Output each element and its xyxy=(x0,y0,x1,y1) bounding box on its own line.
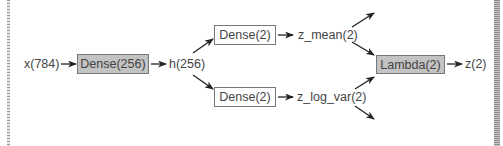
arrow-h-to-dense-logvar xyxy=(193,75,213,89)
node-lambda-label: Lambda(2) xyxy=(380,58,440,72)
node-hidden: h(256) xyxy=(169,57,205,71)
node-dense-mean-label: Dense(2) xyxy=(219,28,270,42)
node-input: x(784) xyxy=(24,57,59,71)
arrow-zmean-out xyxy=(352,13,374,27)
arrow-zmean-to-lambda xyxy=(352,42,374,55)
node-z-mean: z_mean(2) xyxy=(298,28,358,42)
node-dense-256-label: Dense(256) xyxy=(80,57,145,71)
node-z-log-var: z_log_var(2) xyxy=(297,90,366,104)
arrow-zlogvar-out xyxy=(355,106,374,119)
node-z: z(2) xyxy=(465,57,487,71)
arrow-zlogvar-to-lambda xyxy=(355,77,374,89)
node-dense-logvar-label: Dense(2) xyxy=(219,90,270,104)
arrow-h-to-dense-mean xyxy=(193,39,213,53)
node-lambda: Lambda(2) xyxy=(376,55,445,74)
node-dense-mean: Dense(2) xyxy=(214,25,276,45)
node-dense-logvar: Dense(2) xyxy=(214,87,276,107)
node-dense-256: Dense(256) xyxy=(77,54,149,74)
